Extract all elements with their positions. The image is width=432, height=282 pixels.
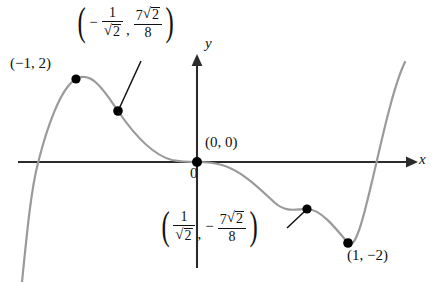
coordinate-comma-right: ,	[197, 227, 204, 244]
radicand-y-right: 2	[235, 211, 244, 227]
close-paren-left-callout: )	[166, 6, 174, 39]
point-local-maximum	[71, 74, 80, 83]
open-paren-right-callout: (	[162, 210, 170, 243]
sqrt-group: √ 2	[143, 6, 160, 23]
local-maximum-label: (−1, 2)	[10, 56, 51, 71]
sqrt-group: √ 2	[104, 23, 121, 40]
sqrt-group: √ 2	[175, 227, 192, 244]
numerator-x-right: 1	[178, 210, 189, 225]
open-paren-left-callout: (	[78, 6, 86, 39]
fraction-x-right: 1 √ 2	[171, 210, 196, 244]
close-paren-right-callout: )	[250, 210, 258, 243]
denominator-y-left: 8	[142, 25, 153, 40]
inflection-left-label: ( − 1 √ 2 , 7 √ 2 8 )	[76, 6, 175, 40]
fraction-y-right: 7 √ 2 8	[216, 210, 248, 244]
leader-line-right-inflection	[287, 211, 305, 228]
x-axis-label: x	[419, 152, 426, 167]
graph-figure: y x 0 (−1, 2) (0, 0) (1, −2) ( − 1 √ 2 ,…	[0, 0, 432, 282]
coefficient-y-left: 7	[136, 9, 143, 23]
leader-line-left-inflection	[119, 61, 141, 109]
radical-icon: √	[104, 23, 112, 40]
fraction-x-left: 1 √ 2	[100, 6, 125, 40]
x-axis	[18, 157, 418, 168]
y-axis-label: y	[205, 36, 212, 51]
point-inflection-left	[113, 106, 123, 116]
point-inflection-right	[302, 204, 311, 213]
denominator-y-right: 8	[226, 229, 237, 244]
denominator-x-left: √ 2	[102, 22, 123, 40]
sqrt-group: √ 2	[227, 210, 244, 227]
radicand-x-left: 2	[112, 24, 121, 40]
radicand-y-left: 2	[151, 7, 160, 23]
origin-zero-label: 0	[190, 166, 198, 181]
inflection-right-label: ( 1 √ 2 , − 7 √ 2 8 )	[160, 210, 259, 244]
numerator-x-left: 1	[107, 6, 118, 21]
coordinate-comma-left: ,	[125, 23, 132, 40]
denominator-x-right: √ 2	[173, 226, 194, 244]
minus-sign-y: −	[203, 219, 215, 234]
radicand-x-right: 2	[184, 228, 193, 244]
origin-label: (0, 0)	[205, 135, 238, 150]
fraction-y-left: 7 √ 2 8	[132, 6, 164, 40]
coefficient-y-right: 7	[220, 213, 227, 227]
numerator-y-left: 7 √ 2	[134, 6, 162, 24]
radical-icon: √	[175, 227, 183, 244]
radical-icon: √	[227, 210, 235, 227]
minus-sign-x: −	[87, 15, 99, 30]
radical-icon: √	[143, 6, 151, 23]
local-minimum-label: (1, −2)	[347, 248, 388, 263]
numerator-y-right: 7 √ 2	[218, 210, 246, 228]
